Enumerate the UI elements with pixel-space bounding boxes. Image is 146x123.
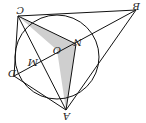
label-M: M <box>27 57 39 68</box>
label-D: D <box>8 68 17 79</box>
label-C: C <box>16 5 24 16</box>
label-O: O <box>53 45 61 56</box>
label-N: N <box>72 37 83 48</box>
inscribed-circle <box>15 15 99 99</box>
label-B: B <box>133 1 141 12</box>
label-A: A <box>63 111 71 122</box>
geometry-diagram: C B D A O N M <box>0 0 146 123</box>
